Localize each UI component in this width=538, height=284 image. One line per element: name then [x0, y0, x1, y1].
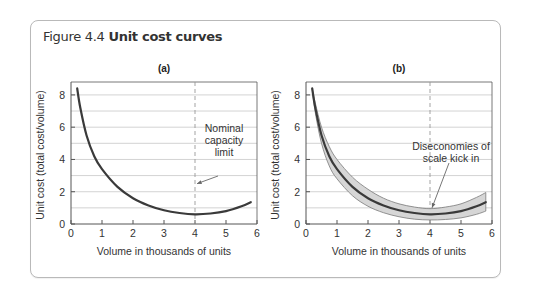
x-axis-title: Volume in thousands of units — [97, 245, 231, 257]
chart-panel-a: (a)012345602468Volume in thousands of un… — [34, 63, 260, 257]
x-tick-label: 4 — [427, 227, 433, 239]
y-tick-label: 4 — [59, 153, 65, 165]
arrowhead-icon — [432, 203, 436, 208]
x-tick-label: 5 — [223, 227, 229, 239]
x-tick-label: 6 — [489, 227, 495, 239]
y-axis-title: Unit cost (total cost/volume) — [269, 90, 281, 220]
x-tick-label: 0 — [303, 227, 309, 239]
x-tick-label: 4 — [192, 227, 198, 239]
y-tick-label: 4 — [294, 153, 300, 165]
annotation-text: scale kick in — [423, 152, 480, 164]
x-tick-label: 3 — [396, 227, 402, 239]
annotation-text: capacity — [205, 134, 244, 146]
annotation-text: Nominal — [205, 122, 244, 134]
y-tick-label: 8 — [294, 89, 300, 101]
panel-label: (b) — [393, 63, 406, 74]
x-tick-label: 2 — [130, 227, 136, 239]
x-tick-label: 3 — [161, 227, 167, 239]
y-tick-label: 2 — [294, 186, 300, 198]
charts-canvas: (a)012345602468Volume in thousands of un… — [0, 0, 538, 284]
x-tick-label: 2 — [365, 227, 371, 239]
y-tick-label: 6 — [59, 121, 65, 133]
x-tick-label: 1 — [334, 227, 340, 239]
x-tick-label: 6 — [254, 227, 260, 239]
annotation-arrow-line — [432, 163, 449, 208]
panel-label: (a) — [158, 63, 170, 74]
y-tick-label: 2 — [59, 186, 65, 198]
y-axis-title: Unit cost (total cost/volume) — [34, 90, 46, 220]
x-tick-label: 1 — [99, 227, 105, 239]
y-tick-label: 0 — [59, 218, 65, 230]
y-tick-label: 6 — [294, 121, 300, 133]
y-tick-label: 8 — [59, 89, 65, 101]
annotation-text: limit — [215, 146, 234, 158]
x-tick-label: 5 — [458, 227, 464, 239]
y-tick-label: 0 — [294, 218, 300, 230]
annotation-text: Diseconomies of — [412, 140, 490, 152]
arrowhead-icon — [197, 180, 202, 184]
chart-panel-b: (b)012345602468Volume in thousands of un… — [269, 63, 495, 257]
x-axis-title: Volume in thousands of units — [332, 245, 466, 257]
x-tick-label: 0 — [68, 227, 74, 239]
